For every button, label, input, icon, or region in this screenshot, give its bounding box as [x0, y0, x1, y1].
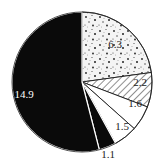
pie-chart: 6.32.21.61.51.114.9 [0, 0, 168, 165]
slice-label: 1.6 [128, 97, 142, 109]
slice-label: 1.1 [101, 148, 115, 160]
slice-label: 14.9 [14, 88, 34, 100]
pie-slices [12, 12, 152, 152]
slice-label: 2.2 [133, 76, 147, 88]
slice-label: 1.5 [115, 120, 129, 132]
slice-label: 6.3 [108, 38, 122, 50]
